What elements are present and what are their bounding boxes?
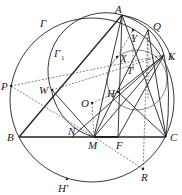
line-af	[118, 15, 122, 137]
label-c: C	[170, 131, 178, 143]
point-w	[51, 89, 53, 91]
point-o	[91, 102, 93, 104]
line-ak-to-m	[94, 15, 122, 137]
point-hprime	[66, 178, 68, 180]
label-k: K	[167, 50, 176, 62]
side-ab	[19, 15, 122, 137]
label-gamma1-sub: 1	[61, 54, 65, 62]
diagram-canvas: Γ Γ 1 A Q Y K X T H O W P B N M F C R H′	[0, 0, 182, 195]
arc-aq	[122, 15, 172, 60]
point-x	[116, 56, 118, 58]
point-r	[142, 168, 144, 170]
label-gamma1: Γ	[53, 47, 61, 59]
line-qc	[148, 30, 166, 137]
label-n: N	[67, 125, 76, 137]
dash-om	[92, 103, 94, 137]
label-q: Q	[153, 20, 161, 32]
geometry-figure: Γ Γ 1 A Q Y K X T H O W P B N M F C R H′	[0, 0, 182, 195]
label-p: P	[0, 80, 8, 92]
label-f: F	[115, 139, 123, 151]
label-h: H	[106, 87, 116, 99]
label-m: M	[87, 139, 98, 151]
point-h	[117, 91, 119, 93]
point-y	[132, 29, 134, 31]
label-w: W	[39, 84, 49, 96]
label-t: T	[127, 64, 134, 76]
label-a: A	[114, 3, 122, 15]
circle-small	[107, 50, 167, 110]
circle-gamma	[10, 18, 174, 182]
label-hprime: H′	[57, 182, 69, 194]
label-b: B	[7, 131, 14, 143]
label-gamma: Γ	[39, 17, 47, 29]
line-hc	[118, 92, 166, 137]
label-y: Y	[131, 32, 139, 44]
label-o: O	[81, 97, 89, 109]
point-p	[10, 85, 12, 87]
label-x: X	[119, 52, 128, 64]
label-r: R	[140, 171, 148, 183]
circle-gamma1	[48, 13, 122, 137]
